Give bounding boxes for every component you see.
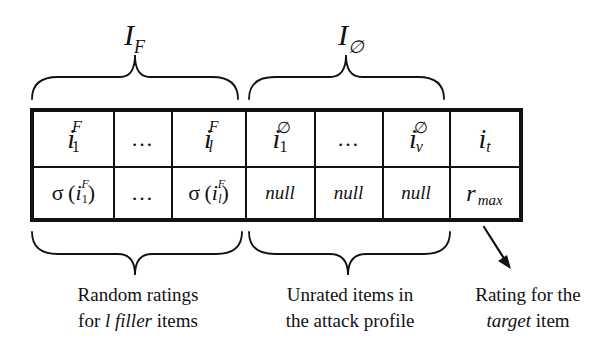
sigma-symbol: σ xyxy=(188,180,200,206)
label-target: Rating for the target item xyxy=(453,282,603,334)
top-brace-unrated xyxy=(249,55,444,99)
target-arrow-line xyxy=(484,227,505,260)
cell-null-2: null xyxy=(315,168,382,218)
cell-unrated-item-1: i∅1 xyxy=(246,112,314,166)
ellipsis: … xyxy=(131,126,154,152)
label-target-line2: target item xyxy=(453,308,603,334)
bottom-brace-filler xyxy=(32,232,242,275)
null-value: null xyxy=(401,182,431,204)
cell-null-3: null xyxy=(383,168,449,218)
cell-null-1: null xyxy=(246,168,314,218)
null-value: null xyxy=(334,182,364,204)
label-text: item xyxy=(531,310,570,331)
item-sub: 1 xyxy=(72,138,80,156)
label-unrated-line2: the attack profile xyxy=(260,308,440,334)
item-sup: F xyxy=(72,118,82,136)
cell-filler-ellipsis: … xyxy=(114,112,171,166)
item-base: i xyxy=(478,123,486,155)
label-target-line1: Rating for the xyxy=(453,282,603,308)
item-sup: F xyxy=(82,177,89,192)
item-sup: ∅ xyxy=(277,118,291,137)
cell-filler-item-l: iFl xyxy=(172,112,245,166)
label-filler: Random ratings for l filler items xyxy=(48,282,228,334)
cell-unrated-ellipsis: … xyxy=(315,112,382,166)
label-filler-line2: for l filler items xyxy=(48,308,228,334)
rating-base: r xyxy=(466,180,475,207)
attack-profile-table: iF1 … iFl i∅1 … i∅v it σ (iF1) … σ (iFl)… xyxy=(30,108,523,222)
label-italic: target xyxy=(486,310,531,331)
cell-target-rating: rmax xyxy=(450,168,519,218)
ellipsis: … xyxy=(337,126,360,152)
cell-filler-rating-ellipsis: … xyxy=(114,168,171,218)
cell-target-item: it xyxy=(450,112,519,166)
null-value: null xyxy=(265,182,295,204)
label-text: items xyxy=(152,310,198,331)
item-sub: l xyxy=(218,192,221,207)
item-sub: 1 xyxy=(82,192,88,207)
label-unrated: Unrated items in the attack profile xyxy=(260,282,440,334)
cell-unrated-item-v: i∅v xyxy=(383,112,449,166)
label-text: for xyxy=(78,310,105,331)
item-sup: F xyxy=(218,177,225,192)
ellipsis: … xyxy=(131,180,154,206)
top-brace-filler xyxy=(32,55,238,99)
item-sup: F xyxy=(209,118,219,136)
rating-sub: max xyxy=(478,192,503,209)
item-sub: t xyxy=(486,138,490,156)
bottom-brace-unrated xyxy=(249,232,450,275)
item-sup: ∅ xyxy=(414,118,428,137)
label-italic: l filler xyxy=(105,310,152,331)
cell-filler-rating-l: σ (iFl) xyxy=(172,168,245,218)
cell-filler-item-1: iF1 xyxy=(34,112,113,166)
sigma-symbol: σ xyxy=(52,180,64,206)
item-sub: v xyxy=(416,138,423,156)
arrow-head-icon xyxy=(498,255,511,269)
cell-filler-rating-1: σ (iF1) xyxy=(34,168,113,218)
item-sub: 1 xyxy=(279,138,287,156)
label-unrated-line1: Unrated items in xyxy=(260,282,440,308)
label-filler-line1: Random ratings xyxy=(48,282,228,308)
item-sub: l xyxy=(209,138,213,156)
